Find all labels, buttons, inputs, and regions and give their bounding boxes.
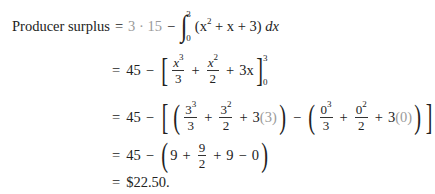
right-paren: ) (279, 100, 286, 134)
equation-line-5: = $22.50. (112, 172, 170, 192)
equation-line-2: = 45 − [ x3 3 + x2 2 + 3x ] 3 0 (112, 50, 267, 90)
evaluation-limits: 3 0 (263, 53, 268, 87)
minus-sign: − (146, 62, 154, 79)
fraction-9-over-2: 9 2 (198, 141, 207, 170)
equals-sign: = (112, 147, 120, 164)
differential: dx (265, 18, 279, 34)
right-square-bracket: ] (426, 99, 433, 135)
equals-sign: = (112, 109, 120, 126)
integrand: (x2 + x + 3) dx (195, 18, 279, 35)
left-square-bracket: [ (162, 99, 169, 135)
term-3x: 3x (239, 62, 254, 79)
constant: 45 (126, 62, 141, 79)
fraction-x2-over-2: x2 2 (207, 56, 219, 85)
integral-sign: ∫ (181, 11, 188, 41)
equals-sign: = (115, 18, 123, 35)
minus-sign: − (167, 18, 175, 35)
equation-line-3: = 45 − [ ( 33 3 + 32 2 + 3(3) ) − ( 03 3… (112, 96, 435, 138)
equation-line-4: = 45 − ( 9 + 9 2 + 9 − 0 ) (112, 138, 270, 172)
left-bracket: [ (161, 53, 168, 87)
equation-line-1: Producer surplus = 3 · 15 − ∫ 3 0 (x2 + … (12, 8, 279, 44)
price-quantity-product: 3 · 15 (128, 18, 162, 35)
right-bracket: ] (256, 53, 263, 87)
final-result: $22.50. (126, 174, 170, 191)
left-paren: ( (173, 100, 180, 134)
producer-surplus-label: Producer surplus (12, 18, 110, 35)
fraction-x3-over-3: x3 3 (172, 56, 184, 85)
equals-sign: = (112, 62, 120, 79)
equals-sign: = (112, 174, 120, 191)
